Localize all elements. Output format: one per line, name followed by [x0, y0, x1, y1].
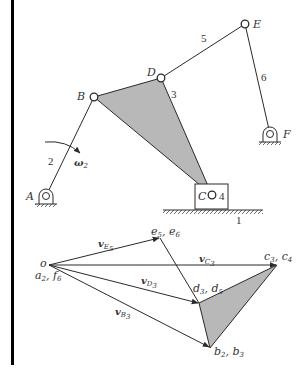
label-v-e5: vE5 — [98, 238, 114, 253]
pivot-support-f — [259, 127, 281, 145]
label-link-1: 1 — [236, 214, 242, 226]
label-link-3: 3 — [171, 88, 177, 100]
left-border-bar — [11, 0, 14, 365]
label-link-4: 4 — [219, 190, 225, 202]
label-b: B — [76, 90, 85, 103]
label-f: F — [282, 128, 291, 141]
label-e: E — [252, 18, 261, 31]
label-v-d3: vD3 — [141, 275, 157, 290]
joint-b — [90, 93, 98, 101]
pivot-support-a — [35, 189, 57, 207]
label-omega-2: ω2 — [74, 157, 89, 170]
label-b2-b3: b2, b3 — [214, 345, 245, 359]
label-v-c3: vC3 — [199, 253, 215, 268]
mechanism — [35, 20, 281, 214]
linkage-velocity-diagram: A B C D E F 1 2 3 4 5 6 ω2 o a2, f6 e5, … — [0, 0, 306, 376]
label-e5-e6: e5, e6 — [151, 225, 181, 239]
label-c3-c4: c3, c4 — [264, 250, 292, 264]
label-v-b3: vB3 — [115, 306, 131, 321]
label-link-6: 6 — [261, 71, 267, 83]
vector-v-b3 — [49, 265, 209, 347]
label-a2-f6: a2, f6 — [35, 269, 62, 283]
link-3-triangle — [94, 78, 212, 195]
joint-c — [208, 191, 216, 199]
label-link-5: 5 — [201, 32, 207, 44]
velocity-polygon — [49, 238, 277, 348]
ground-hatch — [163, 210, 263, 214]
label-d3-d5: d3, d5 — [193, 282, 224, 296]
omega-2-arrow — [45, 142, 80, 153]
label-a: A — [25, 190, 34, 203]
velocity-image-triangle — [199, 265, 277, 348]
label-c: C — [198, 190, 207, 203]
joint-e — [241, 20, 249, 28]
joint-d — [157, 74, 165, 82]
label-d: D — [146, 66, 156, 79]
vector-v-d3 — [49, 265, 198, 303]
label-link-2: 2 — [48, 155, 54, 167]
